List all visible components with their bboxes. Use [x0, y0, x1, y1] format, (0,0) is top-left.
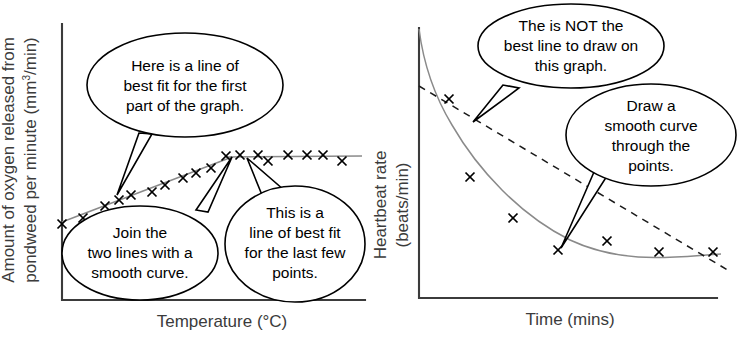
figure-root: Amount of oxygen released from pondweed …	[0, 0, 743, 345]
svg-text:for the last few: for the last few	[245, 244, 347, 261]
heartbeat-y-axis-label-line2: (beats/min)	[393, 162, 412, 247]
pondweed-last-best-fit-line	[226, 156, 362, 157]
svg-text:part of the graph.: part of the graph.	[126, 97, 244, 114]
svg-text:line of best fit: line of best fit	[249, 224, 341, 241]
bubble-first-part-text: Here is a line of best fit for the first…	[123, 57, 247, 114]
svg-text:The is NOT the: The is NOT the	[519, 17, 624, 34]
pondweed-y-axis-label: Amount of oxygen released from pondweed …	[0, 37, 40, 283]
svg-text:Draw a: Draw a	[626, 97, 675, 114]
svg-text:smooth curve.: smooth curve.	[91, 264, 188, 281]
svg-text:this graph.: this graph.	[535, 57, 607, 74]
heartbeat-y-axis-label: Heartbeat rate (beats/min)	[371, 151, 412, 260]
svg-text:two lines with a: two lines with a	[87, 244, 192, 261]
svg-text:best fit for the first: best fit for the first	[123, 77, 247, 94]
bubble-first-part-tail	[117, 133, 152, 195]
svg-text:through the: through the	[612, 137, 690, 154]
svg-text:best line to draw on: best line to draw on	[504, 37, 638, 54]
svg-text:This is a: This is a	[266, 204, 324, 221]
svg-text:points.: points.	[272, 264, 318, 281]
heartbeat-y-axis-label-line1: Heartbeat rate	[371, 151, 390, 260]
svg-text:Here is a line of: Here is a line of	[131, 57, 239, 74]
pondweed-x-axis-label: Temperature (°C)	[157, 312, 288, 331]
heartbeat-x-axis-label: Time (mins)	[525, 310, 614, 329]
figure-canvas: Amount of oxygen released from pondweed …	[0, 0, 743, 345]
svg-text:points.: points.	[628, 157, 674, 174]
pondweed-y-axis-label-line1: Amount of oxygen released from	[0, 37, 18, 283]
pondweed-y-axis-label-line2: pondweed per minute (mm3/min)	[21, 37, 40, 283]
bubble-smooth-curve-tail	[561, 172, 607, 248]
svg-text:smooth curve: smooth curve	[604, 117, 697, 134]
svg-text:Join the: Join the	[113, 224, 167, 241]
bubble-not-best-line-tail	[473, 85, 519, 122]
